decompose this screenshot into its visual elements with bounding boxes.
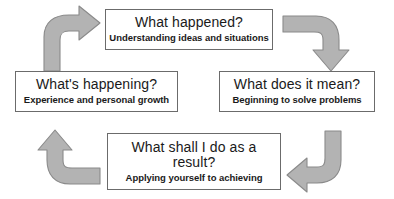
node-title: What happened? xyxy=(135,15,243,31)
curved-arrow-up-right-icon xyxy=(44,6,100,71)
node-title: What shall I do as a result? xyxy=(132,140,257,171)
curved-arrow-right-down-icon xyxy=(283,16,349,71)
curved-arrow-left-up-icon xyxy=(38,130,100,184)
node-what-does-it-mean[interactable]: What does it mean? Beginning to solve pr… xyxy=(219,71,375,112)
curved-arrow-down-left-icon xyxy=(287,131,341,192)
node-subtitle: Experience and personal growth xyxy=(24,94,169,105)
node-what-happened[interactable]: What happened? Understanding ideas and s… xyxy=(105,9,273,50)
node-subtitle: Applying yourself to achieving xyxy=(126,172,263,183)
diagram-canvas: What happened? Understanding ideas and s… xyxy=(0,0,394,199)
node-title: What's happening? xyxy=(36,77,157,93)
node-whats-happening[interactable]: What's happening? Experience and persona… xyxy=(15,71,178,112)
node-subtitle: Understanding ideas and situations xyxy=(109,32,268,43)
node-subtitle: Beginning to solve problems xyxy=(232,94,361,105)
node-what-shall-i-do[interactable]: What shall I do as a result? Applying yo… xyxy=(107,133,281,190)
node-title: What does it mean? xyxy=(234,77,360,93)
